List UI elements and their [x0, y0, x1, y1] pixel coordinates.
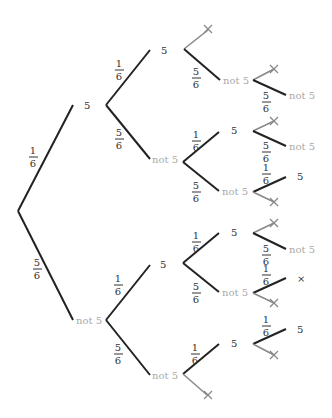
svg-text:6: 6: [193, 243, 199, 254]
node-n21-label: 5: [160, 259, 166, 270]
svg-text:6: 6: [115, 355, 121, 366]
svg-text:6: 6: [193, 142, 199, 153]
node-n122-label: not 5: [222, 186, 248, 197]
svg-text:6: 6: [263, 327, 269, 338]
level-2: 1 6 5 6 5 not 5 1 6 5 6 5 not 5: [106, 45, 178, 381]
svg-text:5: 5: [115, 342, 121, 353]
svg-text:6: 6: [193, 79, 199, 90]
svg-text:5: 5: [263, 243, 269, 254]
branch-n211-pruned: [253, 223, 274, 233]
svg-text:6: 6: [192, 355, 198, 366]
prob-n21-not5: 5 6: [192, 281, 201, 305]
svg-text:5: 5: [116, 127, 122, 138]
branch-n212-pruned: [253, 293, 274, 303]
node-n2211-label: 5: [297, 324, 303, 335]
node-n11-label: 5: [161, 45, 167, 56]
cross-icon: [204, 391, 212, 399]
node-n212-label: not 5: [222, 287, 248, 298]
branch-n22-pruned: [183, 374, 207, 395]
cross-icon: [270, 65, 278, 73]
svg-text:5: 5: [193, 281, 199, 292]
svg-text:6: 6: [263, 175, 269, 186]
branch-root-to-not5: [18, 211, 73, 320]
branch-n211-to-not5: [253, 233, 286, 249]
node-n211-label: 5: [231, 227, 237, 238]
node-n112-label: not 5: [223, 75, 249, 86]
node-n22-label: not 5: [152, 370, 178, 381]
svg-text:5: 5: [193, 180, 199, 191]
prob-n121-not5: 5 6: [262, 140, 271, 164]
branch-n22-to-5: [183, 344, 219, 374]
branch-n221-to-5: [253, 329, 286, 344]
prob-n11-not5: 5 6: [192, 66, 201, 90]
svg-text:1: 1: [193, 129, 199, 140]
branch-n21-to-5: [183, 233, 219, 263]
node-n2121-label: ×: [297, 273, 305, 284]
branch-n1-to-not5: [106, 105, 150, 159]
prob-n122-5: 1 6: [262, 162, 271, 186]
prob-n1-not5: 5 6: [115, 127, 124, 151]
branch-n11-to-not5: [184, 49, 220, 80]
cross-icon: [270, 117, 278, 125]
level-1: 1 6 5 6 5 not 5: [18, 100, 102, 326]
branch-n12-to-5: [183, 132, 219, 162]
svg-text:6: 6: [116, 71, 122, 82]
branch-n112-pruned: [253, 69, 274, 80]
node-n1212-label: not 5: [289, 141, 315, 152]
node-n221-label: 5: [231, 338, 237, 349]
branch-n12-to-not5: [183, 162, 219, 191]
svg-text:1: 1: [193, 230, 199, 241]
svg-text:6: 6: [193, 193, 199, 204]
node-n1122-label: not 5: [289, 90, 315, 101]
prob-n212-5: 1 6: [262, 263, 271, 287]
svg-text:1: 1: [263, 263, 269, 274]
svg-text:5: 5: [263, 90, 269, 101]
svg-text:6: 6: [30, 158, 36, 169]
branch-n121-pruned: [253, 121, 274, 131]
prob-n22-5: 1 6: [191, 342, 200, 366]
branch-n212-to-5: [253, 278, 286, 293]
svg-text:1: 1: [192, 342, 198, 353]
branch-n1-to-5: [106, 50, 150, 105]
cross-icon: [270, 198, 278, 206]
svg-text:5: 5: [34, 257, 40, 268]
svg-text:5: 5: [263, 140, 269, 151]
svg-text:6: 6: [115, 286, 121, 297]
cross-icon: [270, 351, 278, 359]
svg-text:1: 1: [30, 145, 36, 156]
svg-text:6: 6: [193, 294, 199, 305]
prob-n12-not5: 5 6: [192, 180, 201, 204]
node-n2112-label: not 5: [289, 244, 315, 255]
branch-n122-pruned: [253, 192, 274, 202]
node-n1-label: 5: [84, 100, 90, 111]
svg-text:1: 1: [115, 273, 121, 284]
cross-icon: [270, 219, 278, 227]
svg-text:5: 5: [193, 66, 199, 77]
node-n2-label: not 5: [76, 315, 102, 326]
svg-text:1: 1: [263, 162, 269, 173]
branch-n122-to-5: [253, 177, 286, 192]
svg-text:1: 1: [263, 314, 269, 325]
prob-root-not5: 5 6: [33, 257, 42, 281]
node-n1221-label: 5: [297, 171, 303, 182]
branch-n2-to-5: [106, 265, 150, 320]
prob-n2-5: 1 6: [114, 273, 123, 297]
branch-n21-to-not5: [183, 263, 219, 292]
branch-n221-pruned: [253, 344, 274, 355]
node-n12-label: not 5: [152, 154, 178, 165]
svg-text:6: 6: [263, 103, 269, 114]
branch-n112-to-not5: [253, 80, 286, 95]
level-3: 5 6 not 5 1 6 5 6 5 not 5 1 6 5: [183, 25, 249, 399]
branch-root-to-5: [18, 105, 73, 211]
svg-text:6: 6: [34, 270, 40, 281]
level-4: 5 6 not 5 5 6 not 5 1 6 5: [253, 65, 315, 359]
prob-n1-5: 1 6: [115, 58, 124, 82]
svg-text:6: 6: [263, 276, 269, 287]
node-n121-label: 5: [231, 125, 237, 136]
prob-root-5: 1 6: [29, 145, 38, 169]
prob-n2-not5: 5 6: [114, 342, 123, 366]
svg-text:6: 6: [116, 140, 122, 151]
prob-n221-5: 1 6: [262, 314, 271, 338]
cross-icon: [204, 25, 212, 33]
branch-n2-to-not5: [106, 320, 150, 375]
